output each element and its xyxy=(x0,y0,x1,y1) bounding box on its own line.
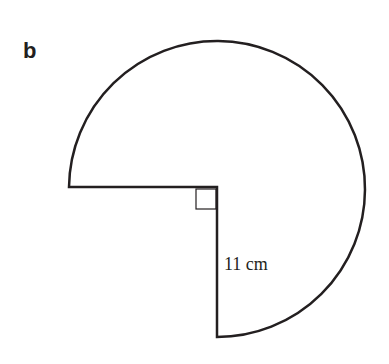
sector-outline xyxy=(69,41,365,337)
radius-label: 11 cm xyxy=(224,254,268,275)
sector-diagram xyxy=(0,0,389,364)
right-angle-marker xyxy=(196,189,216,209)
